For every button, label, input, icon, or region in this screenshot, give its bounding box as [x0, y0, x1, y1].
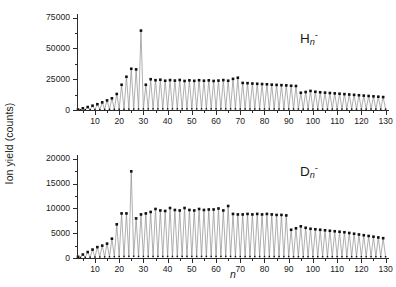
x-minor-tick-top-2: [131, 111, 132, 113]
data-point: [377, 95, 380, 98]
x-tick-bottom-0: [95, 259, 96, 263]
data-point: [217, 207, 220, 210]
x-tick-top-9: [313, 111, 314, 115]
y-tick-label-top-2: 50000: [46, 44, 70, 53]
data-point: [133, 256, 135, 258]
x-minor-tick-bottom-10: [325, 259, 326, 261]
data-point: [280, 214, 283, 217]
y-axis-line-top: [77, 14, 78, 111]
data-point: [329, 229, 332, 232]
data-point: [111, 97, 114, 100]
y-axis-line-bottom: [77, 155, 78, 259]
x-minor-tick-top-11: [349, 111, 350, 113]
data-point: [329, 92, 332, 95]
data-point: [101, 244, 104, 247]
y-tick-top-1: [73, 79, 77, 80]
x-tick-top-11: [361, 111, 362, 115]
y-tick-top-3: [73, 18, 77, 19]
data-point: [115, 223, 118, 226]
x-minor-tick-top-10: [325, 111, 326, 113]
data-point: [300, 91, 303, 94]
x-tick-bottom-5: [216, 259, 217, 263]
x-minor-tick-bottom-6: [228, 259, 229, 261]
data-point: [198, 79, 201, 82]
data-point: [367, 235, 370, 238]
x-tick-bottom-8: [289, 259, 290, 263]
x-tick-bottom-4: [192, 259, 193, 263]
data-point: [338, 230, 341, 233]
panel-deuterium: Dn- 050001000015000200001020304050607080…: [0, 143, 396, 287]
data-point: [358, 94, 361, 97]
species-symbol-top: H: [300, 31, 310, 46]
x-minor-tick-bottom-12: [373, 259, 374, 261]
data-point: [372, 95, 375, 98]
y-tick-bottom-4: [73, 159, 77, 160]
data-point: [120, 212, 123, 215]
data-point: [372, 235, 375, 238]
x-minor-tick-top-9: [301, 111, 302, 113]
spectrum-top: [78, 14, 388, 111]
x-minor-tick-top-5: [204, 111, 205, 113]
plot-area-bottom: [78, 155, 388, 258]
data-point: [91, 104, 94, 107]
y-tick-label-top-3: 75000: [46, 13, 70, 22]
data-point: [106, 242, 109, 245]
data-point: [232, 213, 235, 216]
x-minor-tick-top-8: [277, 111, 278, 113]
species-label-top: Hn-: [300, 30, 318, 48]
data-point: [382, 96, 385, 99]
x-tick-bottom-12: [386, 259, 387, 263]
data-point: [343, 231, 346, 234]
data-point: [266, 83, 269, 86]
data-point: [338, 92, 341, 95]
data-point: [270, 83, 273, 86]
data-point: [169, 79, 172, 82]
data-point: [159, 78, 162, 81]
y-minor-tick-top-0: [75, 95, 77, 96]
species-sup-top: -: [315, 29, 318, 40]
spectrum-trace-top: [78, 31, 386, 110]
species-sup-bottom: -: [315, 162, 318, 173]
data-point: [261, 83, 264, 86]
x-minor-tick-bottom-2: [131, 259, 132, 261]
y-tick-label-bottom-4: 20000: [46, 154, 70, 163]
x-tick-top-7: [264, 111, 265, 115]
data-point: [106, 99, 109, 102]
x-minor-tick-bottom-1: [107, 259, 108, 261]
data-point: [309, 90, 312, 93]
data-point: [198, 208, 201, 211]
data-point: [188, 209, 191, 212]
data-point: [324, 91, 327, 94]
data-point: [154, 79, 157, 82]
figure-root: Ion yield (counts) Hn- 02500050000750001…: [0, 0, 396, 287]
y-minor-tick-bottom-0: [75, 246, 77, 247]
data-point: [135, 68, 138, 71]
data-point: [237, 213, 240, 216]
data-point: [164, 210, 167, 213]
data-point: [324, 229, 327, 232]
x-tick-label-top-12: 130: [366, 117, 396, 126]
species-symbol-bottom: D: [300, 164, 310, 179]
x-tick-top-0: [95, 111, 96, 115]
x-tick-top-5: [216, 111, 217, 115]
x-axis-title: n: [78, 268, 388, 280]
data-point: [251, 213, 254, 216]
x-tick-bottom-6: [240, 259, 241, 263]
x-minor-tick-top-7: [252, 111, 253, 113]
y-tick-bottom-1: [73, 233, 77, 234]
x-minor-tick-top-12: [373, 111, 374, 113]
data-point: [333, 92, 336, 95]
x-minor-tick-bottom-11: [349, 259, 350, 261]
data-point: [149, 78, 152, 81]
data-point: [251, 82, 254, 85]
data-point: [212, 80, 215, 83]
data-point: [333, 230, 336, 233]
x-tick-bottom-10: [337, 259, 338, 263]
data-point: [348, 232, 351, 235]
data-point: [207, 208, 210, 211]
data-point: [304, 226, 307, 229]
data-point: [154, 208, 157, 211]
data-point: [290, 228, 293, 231]
data-point: [367, 95, 370, 98]
data-point: [314, 90, 317, 93]
